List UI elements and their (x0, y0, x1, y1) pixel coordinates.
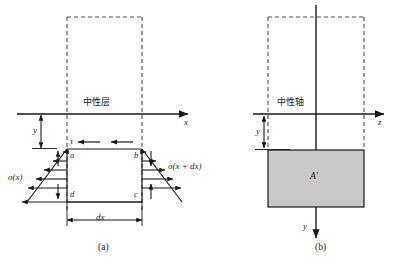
panel-b-y-axis-label: y (303, 222, 307, 231)
panel-b-y-dimension-label: y (256, 127, 260, 136)
panel-b-z-axis-label: z (378, 118, 382, 127)
panel-a-right-envelope (142, 149, 182, 202)
panel-a-corner-c-label: c (134, 190, 138, 199)
panel-a-tau-label: τ (70, 137, 73, 146)
panel-b-drawing (253, 5, 384, 238)
panel-a-drawing (17, 17, 188, 226)
panel-a-dx-label: dx (96, 213, 105, 222)
panel-a-sigma-left-arrows (22, 152, 142, 202)
panel-a-neutral-layer-label: 中性层 (83, 98, 110, 107)
panel-b-neutral-axis-label: 中性轴 (277, 98, 304, 107)
figure-drawing (0, 0, 397, 271)
panel-a-corner-a-label: a (70, 151, 74, 160)
panel-a-dx-dimension (67, 202, 142, 226)
panel-a-x-axis-label: x (184, 118, 188, 127)
panel-b-area-label: A' (310, 172, 318, 182)
panel-b-y-dimension (255, 116, 290, 150)
panel-a-left-envelope (27, 149, 67, 202)
panel-a-sigma-x-dx-label: σ(x + dx) (168, 162, 202, 171)
panel-a-element-abcd (67, 149, 142, 202)
panel-a-y-dimension-label: y (33, 126, 37, 135)
panel-a-sigma-x-label: σ(x) (8, 173, 22, 182)
panel-b-caption: (b) (315, 243, 326, 253)
panel-a-corner-d-label: d (70, 190, 74, 199)
panel-a-caption: (a) (98, 243, 109, 253)
panel-a-corner-b-label: b (134, 151, 138, 160)
figure-container: 中性层 x y τ σ(x) σ(x + dx) a b c d dx (a) … (0, 0, 397, 271)
